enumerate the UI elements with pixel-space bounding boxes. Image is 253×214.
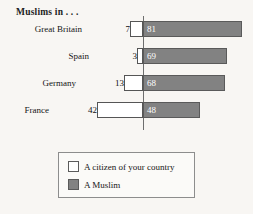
category-label-france: France	[0, 102, 49, 118]
white-swatch-icon	[68, 161, 79, 172]
legend-label-muslim: A Muslim	[84, 178, 120, 192]
plot-area: Great Britain 7 81 Spain 3 69 Germany 13…	[0, 16, 253, 132]
table-row: Germany 13 68	[0, 75, 253, 102]
bar-value-citizen-germany: 13	[106, 75, 127, 91]
table-row: France 42 48	[0, 102, 253, 129]
category-label-great-britain: Great Britain	[0, 21, 82, 37]
chart-legend: A citizen of your country A Muslim	[58, 152, 195, 198]
bar-value-citizen-great-britain: 7	[112, 21, 133, 37]
bar-value-citizen-france: 42	[79, 102, 100, 118]
bar-value-citizen-spain: 3	[119, 48, 140, 64]
table-row: Spain 3 69	[0, 48, 253, 75]
bar-segment-citizen-france	[97, 102, 143, 118]
gray-swatch-icon	[68, 179, 79, 190]
bar-value-muslim-germany: 68	[143, 75, 156, 91]
diverging-bar-chart: Muslims in . . . Great Britain 7 81 Spai…	[0, 0, 253, 214]
bar-value-muslim-spain: 69	[143, 48, 156, 64]
legend-label-citizen: A citizen of your country	[84, 160, 174, 174]
bar-value-muslim-great-britain: 81	[143, 21, 156, 37]
bar-value-muslim-france: 48	[143, 102, 156, 118]
category-label-spain: Spain	[0, 48, 89, 64]
bar-segment-muslim-great-britain	[143, 21, 242, 37]
category-label-germany: Germany	[0, 75, 76, 91]
table-row: Great Britain 7 81	[0, 21, 253, 48]
